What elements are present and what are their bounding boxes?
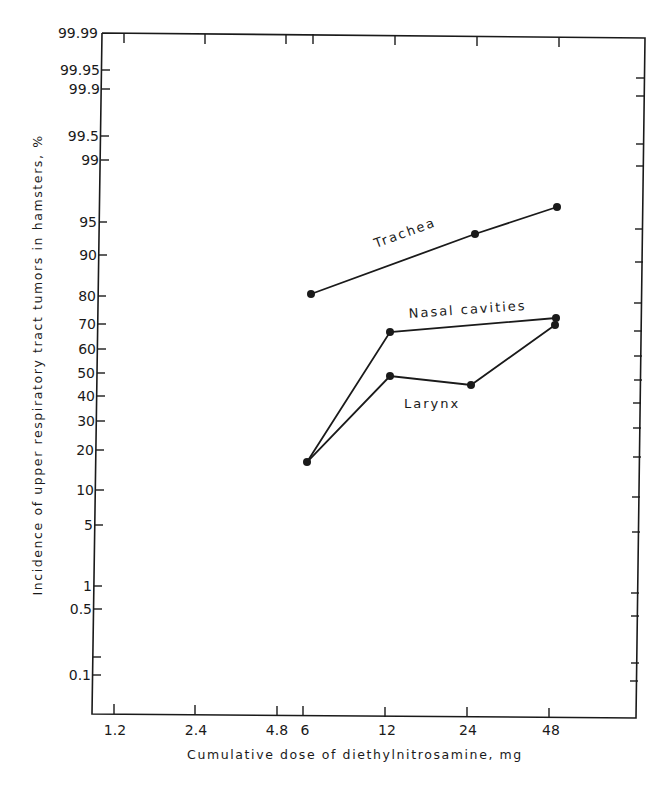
y-tick-label: 99.95 [60, 62, 100, 78]
data-point [552, 314, 560, 322]
y-tick-label: 99.5 [68, 128, 99, 144]
y-tick-label: 99.9 [69, 81, 100, 97]
data-point [303, 458, 311, 466]
x-axis-title: Cumulative dose of diethylnitrosamine, m… [187, 747, 523, 762]
y-tick-label: 50 [77, 365, 95, 381]
x-tick-label: 2.4 [185, 722, 207, 738]
data-point [471, 230, 479, 238]
data-point [386, 328, 394, 336]
x-tick-label: 12 [378, 722, 396, 738]
y-tick-label: 10 [76, 482, 94, 498]
series-nasal-cavities [307, 314, 560, 462]
probability-chart: 99.99 99.95 99.9 99.5 99 95 90 80 70 60 … [0, 0, 668, 790]
x-tick-label: 48 [542, 722, 560, 738]
x-tick-label: 24 [459, 722, 477, 738]
y-tick-label: 95 [79, 214, 97, 230]
plot-frame [92, 33, 645, 718]
y-axis-title: Incidence of upper respiratory tract tum… [30, 134, 45, 595]
y-tick-label: 90 [79, 247, 97, 263]
y-tick-label: 30 [77, 413, 95, 429]
x-tick-labels: 1.2 2.4 4.8 6 12 24 48 [104, 722, 560, 738]
data-point [307, 290, 315, 298]
series-label-trachea: Trachea [371, 215, 438, 252]
x-tick-label: 4.8 [266, 722, 288, 738]
y-tick-label: 99.99 [58, 25, 98, 41]
y-tick-label: 40 [77, 388, 95, 404]
data-point [553, 203, 561, 211]
series-label-larynx: Larynx [404, 396, 460, 411]
series-trachea [307, 203, 561, 298]
y-tick-label: 70 [78, 316, 96, 332]
y-tick-label: 80 [78, 288, 96, 304]
y-tick-label: 5 [84, 517, 93, 533]
data-point [386, 372, 394, 380]
series-label-nasal-cavities: Nasal cavities [408, 298, 527, 321]
x-tick-label: 6 [301, 722, 310, 738]
x-tick-label: 1.2 [104, 722, 126, 738]
data-point [467, 381, 475, 389]
series-larynx [307, 321, 559, 462]
y-tick-label: 0.5 [70, 601, 92, 617]
y-tick-label: 1 [83, 578, 92, 594]
y-tick-label: 99 [81, 152, 99, 168]
data-point [551, 321, 559, 329]
y-tick-label: 20 [76, 442, 94, 458]
y-tick-label: 60 [78, 341, 96, 357]
y-tick-label: 0.1 [69, 667, 91, 683]
